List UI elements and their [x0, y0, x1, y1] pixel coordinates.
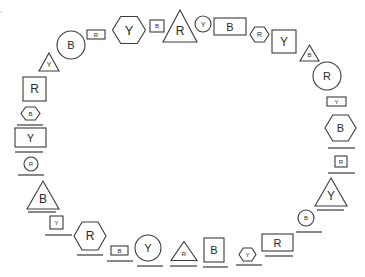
shape-triangle-y: Y	[39, 53, 59, 71]
shape-label: R	[30, 82, 39, 96]
shape-rect-b: B	[150, 20, 164, 32]
shape-ring-diagram: YBRYBRYBRYBRYBRYBRYBRYBRYBRYBR	[0, 0, 365, 277]
shape-circle-y: Y	[135, 235, 163, 266]
shape-circle-y: Y	[195, 16, 211, 32]
shape-triangle-r: R	[170, 242, 197, 267]
shape-hexagon-r: R	[74, 222, 106, 255]
shape-label: Y	[144, 242, 152, 254]
shape-circle-r: R	[18, 157, 44, 175]
shape-label: R	[176, 24, 185, 38]
shape-label: Y	[54, 220, 58, 226]
shape-hexagon-y: Y	[236, 248, 262, 265]
shape-label: B	[304, 215, 308, 221]
shape-label: R	[323, 70, 331, 82]
shape-label: Y	[327, 189, 335, 203]
shape-rect-r: R	[328, 156, 355, 173]
shape-triangle-b: B	[27, 181, 59, 212]
stray-mark	[1, 11, 2, 12]
shape-label: Y	[47, 61, 52, 68]
shape-rect-b: B	[214, 18, 246, 35]
shape-label: R	[94, 32, 99, 38]
shape-rect-y: Y	[327, 97, 346, 106]
shape-label: R	[257, 31, 262, 38]
shape-label: R	[29, 161, 34, 167]
shape-rect-r: R	[23, 77, 46, 101]
shape-circle-r: R	[313, 62, 341, 90]
shape-rect-y: Y	[272, 30, 296, 53]
shape-label: B	[226, 21, 233, 33]
shape-label: B	[39, 192, 47, 206]
shape-hexagon-b: B	[325, 115, 356, 148]
shape-circle-b: B	[57, 31, 85, 59]
shape-triangle-r: R	[163, 10, 197, 42]
shape-label: Y	[125, 23, 134, 38]
shape-label: B	[337, 122, 344, 134]
shape-label: Y	[245, 252, 249, 258]
shape-label: R	[339, 159, 344, 165]
shape-label: B	[67, 39, 74, 51]
shape-label: B	[210, 244, 217, 256]
shape-label: Y	[334, 99, 338, 105]
shape-rect-r: R	[87, 30, 105, 39]
shape-triangle-b: B	[300, 45, 319, 61]
shape-rect-b: B	[203, 238, 228, 267]
shape-label: Y	[27, 132, 35, 144]
shape-label: B	[307, 52, 311, 58]
shape-label: R	[86, 229, 95, 243]
shape-hexagon-y: Y	[113, 17, 146, 44]
shape-hexagon-b: B	[17, 107, 43, 125]
shapes-layer: YBRYBRYBRYBRYBRYBRYBRYBRYBRYBR	[15, 10, 356, 267]
shape-label: B	[28, 111, 32, 117]
shape-label: Y	[201, 21, 206, 28]
shape-label: R	[274, 237, 282, 249]
shape-label: B	[117, 248, 121, 254]
shape-triangle-y: Y	[315, 178, 347, 210]
shape-rect-r: R	[262, 234, 293, 256]
shape-rect-y: Y	[45, 216, 72, 235]
shape-label: Y	[280, 35, 288, 49]
shape-rect-b: B	[107, 246, 133, 261]
shape-circle-b: B	[296, 210, 322, 232]
shape-label: R	[182, 251, 187, 257]
shape-hexagon-r: R	[250, 27, 269, 42]
shape-rect-y: Y	[15, 128, 46, 152]
shape-label: B	[155, 23, 159, 29]
